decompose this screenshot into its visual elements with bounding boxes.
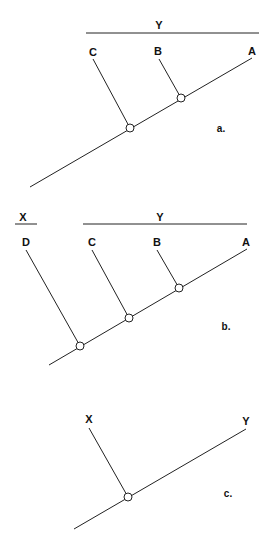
branch-d: [26, 250, 80, 346]
taxon-label-b: B: [153, 236, 161, 248]
branch-c: [93, 59, 130, 128]
node-circle: [175, 284, 183, 292]
node-circle: [125, 314, 133, 322]
taxon-label-b: B: [154, 45, 162, 57]
taxon-label-x: X: [85, 413, 93, 425]
branch-b: [159, 59, 181, 98]
node-circle: [124, 493, 132, 501]
group-label-x: X: [19, 211, 27, 223]
branch-b: [157, 250, 179, 288]
panel-label-b: b.: [222, 321, 231, 332]
group-label-y: Y: [156, 211, 164, 223]
taxon-label-a: A: [248, 45, 256, 57]
taxon-label-a: A: [242, 236, 250, 248]
main-branch: [74, 429, 246, 529]
cladogram-a: Y C B A a.: [30, 19, 259, 187]
taxon-label-c: C: [89, 46, 97, 58]
node-circle: [177, 94, 185, 102]
branch-c: [92, 250, 129, 318]
branch-x: [89, 428, 128, 497]
group-label-y: Y: [155, 19, 163, 31]
cladogram-b: X Y D C B A b.: [15, 211, 250, 365]
node-circle: [76, 342, 84, 350]
panel-label-c: c.: [224, 488, 233, 499]
panel-label-a: a.: [217, 123, 226, 134]
node-circle: [126, 124, 134, 132]
taxon-label-y: Y: [242, 415, 250, 427]
taxon-label-d: D: [22, 236, 30, 248]
taxon-label-c: C: [88, 236, 96, 248]
cladogram-figure: Y C B A a. X Y D C B A b. X Y c.: [0, 0, 265, 538]
cladogram-c: X Y c.: [74, 413, 250, 529]
